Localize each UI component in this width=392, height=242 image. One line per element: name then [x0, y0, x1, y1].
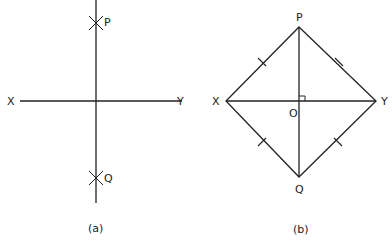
diagram-canvas: P Q X Y (a) P Q X Y O (b): [0, 0, 392, 242]
figure-a: [20, 0, 182, 203]
equal-side-tick-marks-icon: [258, 58, 343, 146]
label-b-p: P: [296, 11, 303, 24]
label-a-p: P: [104, 16, 111, 29]
label-a-y: Y: [176, 95, 184, 108]
label-a-q: Q: [104, 172, 113, 185]
figure-b: [226, 27, 376, 177]
rhombus-pxqy: [226, 27, 376, 177]
label-b-q: Q: [295, 183, 304, 196]
right-angle-marker-icon: [299, 96, 305, 101]
label-b-x: X: [212, 95, 220, 108]
label-b-o: O: [289, 107, 298, 120]
label-a-x: X: [7, 95, 15, 108]
caption-a: (a): [88, 222, 103, 235]
label-b-y: Y: [380, 95, 388, 108]
caption-b: (b): [293, 223, 309, 236]
